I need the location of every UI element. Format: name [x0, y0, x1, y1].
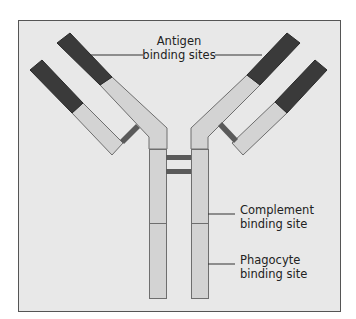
stem-right-upper — [192, 150, 209, 224]
label-phagocyte-line2: binding site — [240, 267, 307, 281]
label-antigen-line2: binding sites — [142, 48, 215, 62]
antibody-diagram: Antigen binding sites Complement binding… — [0, 0, 356, 319]
label-complement-line2: binding site — [240, 217, 307, 231]
disulfide-bond-hinge-lower — [166, 169, 191, 174]
disulfide-bond-hinge-upper — [166, 155, 191, 160]
stem-left-upper — [150, 150, 167, 224]
label-complement-line1: Complement — [240, 203, 314, 217]
label-phagocyte-line1: Phagocyte — [240, 253, 300, 267]
stem-right-lower — [192, 224, 209, 299]
label-antigen-line1: Antigen — [157, 34, 202, 48]
stem-left-lower — [150, 224, 167, 299]
